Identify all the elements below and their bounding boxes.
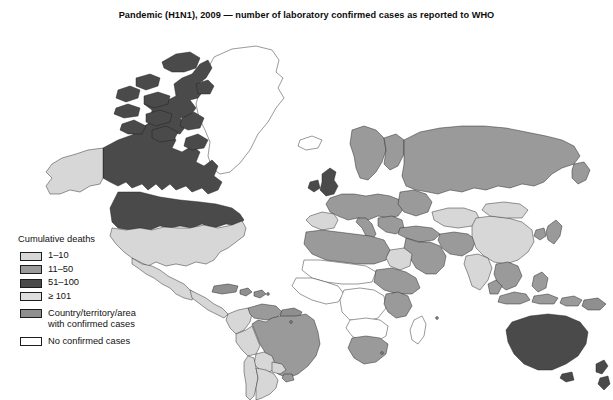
legend-label-confirmed-cases: Country/territory/area with confirmed ca…	[48, 308, 136, 331]
legend-swatch-51-100	[20, 279, 42, 288]
legend-swatch-11-50	[20, 265, 42, 274]
legend-item-confirmed-cases: Country/territory/area with confirmed ca…	[17, 308, 189, 331]
legend-title: Cumulative deaths	[18, 234, 189, 245]
legend-item-no-confirmed-cases: No confirmed cases	[17, 336, 189, 348]
legend-item-101-plus: ≥ 101	[17, 291, 189, 303]
legend-item-11-50: 11–50	[17, 264, 189, 276]
region-central-africa	[340, 288, 386, 322]
legend-label-51-100: 51–100	[48, 277, 79, 289]
legend-label-1-10: 1–10	[48, 250, 69, 262]
legend-swatch-confirmed-cases	[20, 309, 42, 318]
page-title: Pandemic (H1N1), 2009 — number of labora…	[0, 9, 613, 21]
h1n1-world-map-figure: Pandemic (H1N1), 2009 — number of labora…	[0, 0, 613, 400]
legend-swatch-1-10	[20, 252, 42, 261]
legend-label-101-plus: ≥ 101	[48, 291, 71, 303]
legend-label-no-confirmed-cases: No confirmed cases	[48, 336, 130, 348]
legend-item-51-100: 51–100	[17, 277, 189, 289]
legend-item-1-10: 1–10	[17, 250, 189, 262]
legend-label-11-50: 11–50	[48, 264, 73, 276]
map-legend: Cumulative deaths 1–10 11–50 51–100 ≥ 10…	[17, 234, 189, 349]
legend-swatch-101-plus	[20, 292, 42, 301]
legend-swatch-no-confirmed-cases	[20, 337, 42, 346]
